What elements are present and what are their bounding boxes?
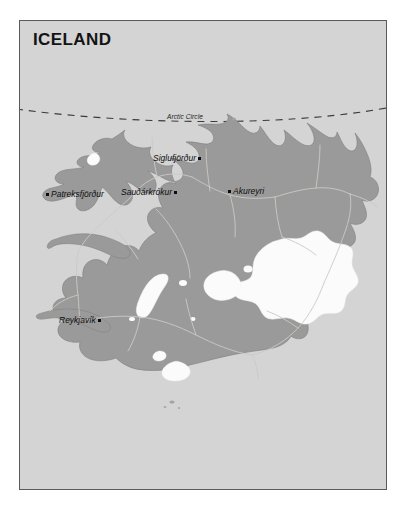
hofsjokull-glacier — [204, 271, 241, 301]
grimsey-island — [232, 118, 236, 121]
glacier-fragment — [307, 300, 313, 305]
vestmannaeyjar-island — [178, 407, 180, 409]
iceland-map-graphic — [20, 21, 387, 490]
page-title: ICELAND — [33, 30, 111, 50]
glacier-fragment — [129, 317, 135, 321]
vestmannaeyjar-island — [169, 400, 174, 403]
map-panel: ICELAND Arctic Circle Patreksfjörður Sig… — [19, 20, 387, 490]
glacier-fragment — [244, 266, 253, 273]
glacier-fragment — [179, 280, 187, 286]
vestmannaeyjar-island — [164, 406, 167, 408]
map-figure: ICELAND Arctic Circle Patreksfjörður Sig… — [0, 0, 407, 518]
